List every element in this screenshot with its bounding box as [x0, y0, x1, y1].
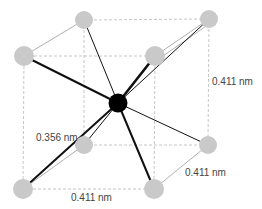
label-bond-length: 0.356 nm: [36, 132, 78, 143]
atom-front-top-left: [14, 46, 34, 66]
atom-front-top-right: [145, 46, 165, 66]
center-atom: [109, 94, 128, 113]
atom-back-top-right: [200, 10, 218, 28]
crystal-cell-diagram: 0.411 nm 0.356 nm 0.411 nm 0.411 nm: [0, 0, 262, 209]
label-width: 0.411 nm: [71, 192, 112, 203]
label-depth: 0.411 nm: [185, 167, 226, 178]
atom-front-bottom-right: [144, 179, 164, 199]
atom-back-bottom-right: [199, 136, 217, 154]
atom-front-bottom-left: [13, 179, 33, 199]
label-height: 0.411 nm: [212, 76, 253, 87]
atom-back-top-left: [75, 11, 93, 29]
